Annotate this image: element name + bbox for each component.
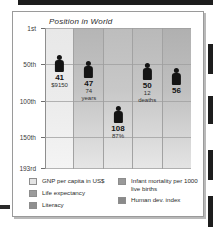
chart-title: Position in World xyxy=(49,17,112,26)
legend-column-left: GNP per capita in US$ Life expectancy Li… xyxy=(29,177,110,213)
gridline xyxy=(45,101,191,102)
plot-frame xyxy=(45,28,191,169)
y-axis-tick: 100th xyxy=(41,101,45,102)
legend-column-right: Infant mortality per 1000 live births Hu… xyxy=(118,177,199,213)
legend-item-literacy[interactable]: Literacy xyxy=(29,201,110,209)
page-edge-mark xyxy=(208,44,213,74)
gridline xyxy=(45,28,191,29)
legend-swatch-icon xyxy=(29,202,37,209)
y-axis-tick: 150th xyxy=(41,137,45,138)
y-axis-tick: 50th xyxy=(41,64,45,65)
legend-swatch-icon xyxy=(118,178,126,185)
chart-legend: GNP per capita in US$ Life expectancy Li… xyxy=(29,177,199,213)
gridline xyxy=(45,137,191,138)
legend-label: Human dev. index xyxy=(131,196,180,204)
page-left-margin xyxy=(0,4,5,227)
legend-label: Infant mortality per 1000 live births xyxy=(131,177,199,192)
page-root: Position in World 1st 50th 100t xyxy=(0,0,213,227)
y-axis-tick: 1st xyxy=(41,28,45,29)
legend-swatch-icon xyxy=(29,190,37,197)
page-edge-mark xyxy=(208,150,213,180)
y-axis-tick: 193rd xyxy=(41,168,45,169)
y-axis-label: 50th xyxy=(23,61,36,68)
y-axis-label: 150th xyxy=(20,134,36,141)
page-top-rule xyxy=(18,0,213,5)
legend-label: Literacy xyxy=(42,201,64,209)
legend-item-life-expectancy[interactable]: Life expectancy xyxy=(29,189,110,197)
legend-swatch-icon xyxy=(118,197,126,204)
legend-item-human-dev-index[interactable]: Human dev. index xyxy=(118,196,199,204)
legend-swatch-icon xyxy=(29,178,37,185)
y-axis-label: 1st xyxy=(27,25,36,32)
page-edge-mark xyxy=(208,96,213,124)
legend-label: GNP per capita in US$ xyxy=(42,177,104,185)
chart-figure: Position in World 1st 50th 100t xyxy=(12,11,204,217)
legend-item-gnp-per-capita[interactable]: GNP per capita in US$ xyxy=(29,177,110,185)
legend-item-infant-mortality[interactable]: Infant mortality per 1000 live births xyxy=(118,177,199,192)
gridline xyxy=(45,64,191,65)
page-bottom-rule xyxy=(0,205,10,209)
plot-area: 1st 50th 100th 150th 193rd xyxy=(45,28,191,169)
gridline xyxy=(45,168,191,169)
legend-label: Life expectancy xyxy=(42,189,85,197)
page-edge-mark xyxy=(208,196,213,227)
y-axis-label: 193rd xyxy=(19,165,36,172)
y-axis-label: 100th xyxy=(20,98,36,105)
